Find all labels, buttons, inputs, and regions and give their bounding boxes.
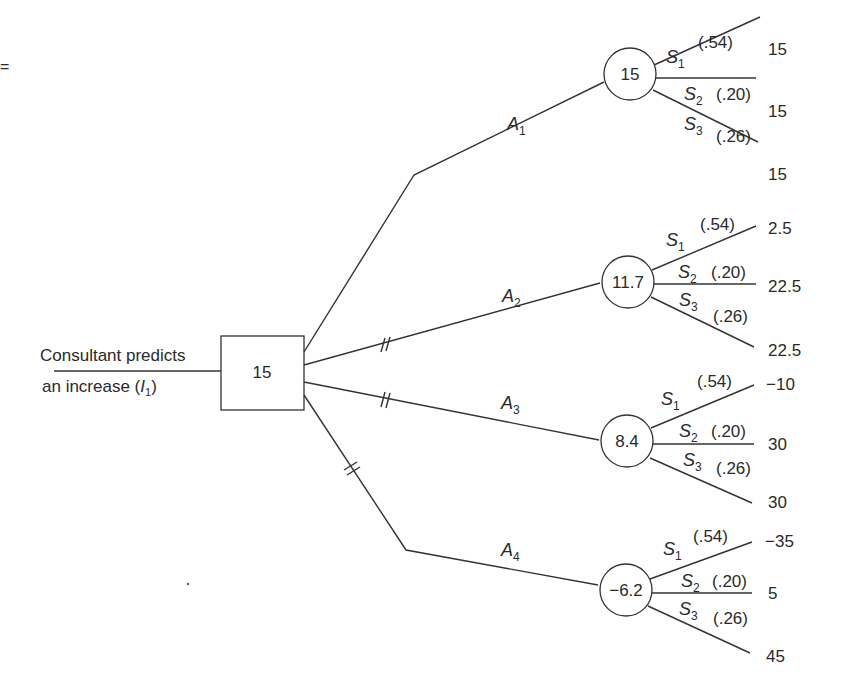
action-branch-a2: A2 — [304, 283, 600, 365]
svg-text:S2: S2 — [681, 571, 700, 595]
svg-text:(.54): (.54) — [698, 33, 733, 52]
chance-node-a1: 15 S1 (.54) S2 (.20) S3 (.26) 15 15 15 — [604, 17, 787, 184]
svg-text:S1: S1 — [663, 539, 682, 563]
payoff: 30 — [768, 435, 787, 454]
svg-text:S1: S1 — [666, 230, 685, 254]
action-label-a2: A2 — [501, 286, 521, 310]
svg-text:(.54): (.54) — [693, 527, 728, 546]
payoff: 15 — [768, 40, 787, 59]
svg-text:(.54): (.54) — [700, 215, 735, 234]
payoff: 22.5 — [768, 277, 801, 296]
svg-text:S3: S3 — [679, 290, 698, 314]
svg-text:S3: S3 — [684, 114, 703, 138]
chance-node-value: 11.7 — [612, 273, 644, 292]
margin-mark: = — [0, 58, 9, 75]
chance-node-value: −6.2 — [609, 581, 643, 600]
svg-text:S1: S1 — [666, 47, 685, 71]
chance-node-a2: 11.7 S1 (.54) S2 (.20) S3 (.26) 2.5 22.5… — [602, 215, 801, 360]
svg-text:(.26): (.26) — [713, 307, 748, 326]
svg-text:S2: S2 — [678, 262, 697, 286]
pruned-mark-a3 — [381, 392, 390, 408]
svg-text:(.26): (.26) — [716, 459, 751, 478]
action-label-a3: A3 — [500, 393, 520, 417]
action-label-a1: A1 — [506, 114, 526, 138]
pruned-mark-a2 — [381, 337, 390, 352]
decision-node-value: 15 — [253, 363, 272, 382]
decision-tree-diagram: = Consultant predicts an increase (I1) 1… — [0, 0, 844, 693]
payoff: 5 — [768, 584, 777, 603]
svg-text:S2: S2 — [684, 84, 703, 108]
svg-text:S3: S3 — [679, 599, 698, 623]
svg-text:(.20): (.20) — [711, 263, 746, 282]
chance-node-a4: −6.2 S1 (.54) S2 (.20) S3 (.26) −35 5 45 — [600, 527, 794, 666]
payoff: 2.5 — [768, 219, 792, 238]
root-label-line1: Consultant predicts — [40, 346, 186, 365]
svg-text:S2: S2 — [679, 421, 698, 445]
action-branch-a4: A4 — [304, 395, 598, 585]
root-label-line2: an increase (I1) — [42, 377, 157, 398]
payoff: 30 — [768, 493, 787, 512]
svg-text:(.26): (.26) — [713, 609, 748, 628]
svg-text:(.20): (.20) — [712, 572, 747, 591]
action-branch-a3: A3 — [304, 382, 599, 440]
payoff: −35 — [765, 532, 794, 551]
payoff: 15 — [768, 165, 787, 184]
chance-node-a3: 8.4 S1 (.54) S2 (.20) S3 (.26) −10 30 30 — [601, 372, 795, 512]
action-branch-a1: A1 — [304, 82, 604, 352]
svg-text:S1: S1 — [661, 389, 680, 413]
action-label-a4: A4 — [500, 540, 520, 564]
decision-node: 15 — [221, 336, 304, 410]
payoff: 45 — [766, 647, 785, 666]
svg-text:(.20): (.20) — [711, 422, 746, 441]
stray-dot — [187, 583, 189, 585]
payoff: 15 — [768, 102, 787, 121]
svg-text:(.54): (.54) — [697, 372, 732, 391]
chance-node-value: 8.4 — [615, 432, 639, 451]
payoff: 22.5 — [768, 341, 801, 360]
svg-text:(.20): (.20) — [716, 85, 751, 104]
svg-text:(.26): (.26) — [716, 127, 751, 146]
svg-text:S3: S3 — [683, 450, 702, 474]
chance-node-value: 15 — [621, 65, 640, 84]
payoff: −10 — [766, 375, 795, 394]
